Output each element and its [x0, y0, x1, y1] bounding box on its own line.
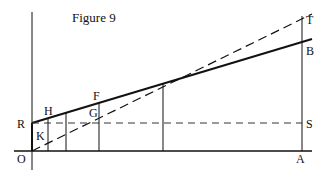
label-H: H — [44, 104, 53, 118]
label-B: B — [306, 44, 314, 58]
label-F: F — [93, 89, 100, 103]
figure-9-diagram: Figure 9 T B F G H R K S O A — [0, 0, 326, 178]
label-S: S — [306, 117, 313, 131]
label-T: T — [306, 13, 314, 27]
label-R: R — [17, 117, 25, 131]
label-G: G — [89, 106, 98, 120]
label-O: O — [17, 152, 26, 166]
line-OT — [32, 14, 312, 151]
figure-title: Figure 9 — [72, 10, 116, 25]
label-A: A — [296, 152, 305, 166]
label-K: K — [36, 129, 45, 143]
line-RB — [32, 39, 312, 123]
